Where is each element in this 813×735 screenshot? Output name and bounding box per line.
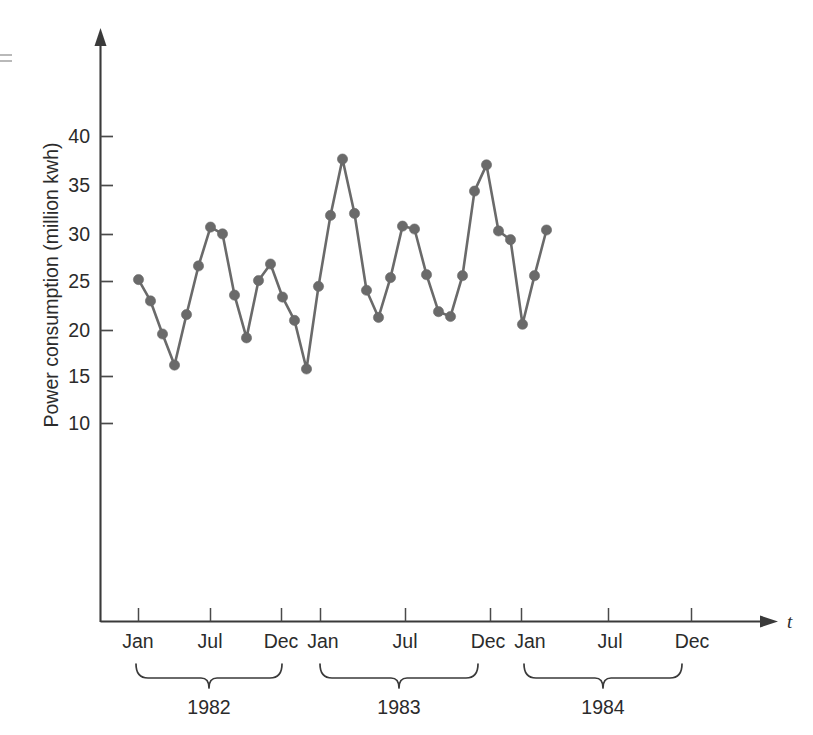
y-axis-title: Power consumption (million kwh) <box>40 142 62 427</box>
data-point <box>385 273 395 283</box>
data-point <box>349 208 359 218</box>
data-point <box>277 292 287 302</box>
data-point <box>289 315 299 325</box>
x-tick-label-jul-1982: Jul <box>198 630 223 652</box>
data-point <box>541 225 551 235</box>
x-tick-label-jul-1983: Jul <box>393 630 418 652</box>
y-axis-ticks <box>101 137 114 424</box>
data-point <box>181 309 191 319</box>
data-point <box>469 186 479 196</box>
data-point <box>433 307 443 317</box>
data-point <box>205 222 215 232</box>
data-point <box>313 281 323 291</box>
data-point <box>229 290 239 300</box>
data-point <box>253 275 263 285</box>
data-point <box>301 364 311 374</box>
x-tick-label-jan-1983: Jan <box>307 630 338 652</box>
data-point <box>421 270 431 280</box>
data-point <box>133 274 143 284</box>
year-brace-1983 <box>320 664 478 688</box>
y-tick-label-40: 40 <box>68 125 90 147</box>
y-axis-arrow-icon <box>95 28 107 46</box>
data-point <box>457 271 467 281</box>
year-brace-1984 <box>524 664 682 688</box>
data-point <box>325 210 335 220</box>
x-tick-label-jan-1982: Jan <box>122 630 153 652</box>
x-tick-label-jan-1984: Jan <box>514 630 545 652</box>
data-point <box>505 235 515 245</box>
x-tick-label-dec-1983: Dec <box>471 630 506 652</box>
data-point <box>397 221 407 231</box>
year-label-1982: 1982 <box>187 696 230 718</box>
year-label-1983: 1983 <box>377 696 420 718</box>
x-axis-arrow-icon <box>760 616 778 628</box>
data-point <box>517 319 527 329</box>
data-point <box>169 360 179 370</box>
year-label-1984: 1984 <box>581 696 625 718</box>
y-tick-label-10: 10 <box>68 412 90 434</box>
data-point <box>241 333 251 343</box>
x-tick-label-dec-1982: Dec <box>264 630 299 652</box>
line-chart: 40 35 30 25 20 15 10 Power consumption (… <box>0 0 813 735</box>
data-point <box>193 261 203 271</box>
y-tick-label-20: 20 <box>68 319 90 341</box>
scan-artifact-mark <box>0 60 12 62</box>
year-brace-1982 <box>136 664 282 688</box>
y-tick-label-35: 35 <box>68 174 90 196</box>
data-point <box>373 312 383 322</box>
data-point <box>265 259 275 269</box>
data-point <box>445 311 455 321</box>
series-markers <box>133 154 551 374</box>
data-point <box>493 226 503 236</box>
x-axis-ticks <box>139 608 692 622</box>
x-tick-label-jul-1984: Jul <box>598 630 623 652</box>
scan-artifact-mark <box>0 54 12 56</box>
data-point <box>481 160 491 170</box>
data-point <box>217 229 227 239</box>
figure-root: 40 35 30 25 20 15 10 Power consumption (… <box>0 0 813 735</box>
y-tick-label-30: 30 <box>68 223 90 245</box>
y-tick-label-25: 25 <box>68 270 90 292</box>
data-point <box>337 154 347 164</box>
data-point <box>145 296 155 306</box>
data-point <box>361 285 371 295</box>
x-tick-label-dec-1984: Dec <box>675 630 710 652</box>
data-point <box>409 224 419 234</box>
x-axis-title: t <box>787 611 793 632</box>
data-point <box>529 271 539 281</box>
y-tick-label-15: 15 <box>68 365 90 387</box>
data-point <box>157 329 167 339</box>
